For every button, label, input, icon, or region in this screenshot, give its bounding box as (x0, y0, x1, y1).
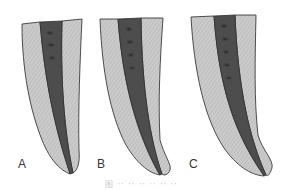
tooth-a (22, 19, 82, 174)
tooth-c (191, 15, 272, 176)
root-canal-diagram (0, 0, 283, 190)
tooth-b (100, 18, 170, 175)
panel-label-c: C (189, 157, 198, 171)
figure-caption: 图 ·· ·· ·· ·· ·· ·· (0, 178, 283, 189)
panel-label-a: A (18, 157, 26, 171)
panel-label-b: B (97, 157, 105, 171)
